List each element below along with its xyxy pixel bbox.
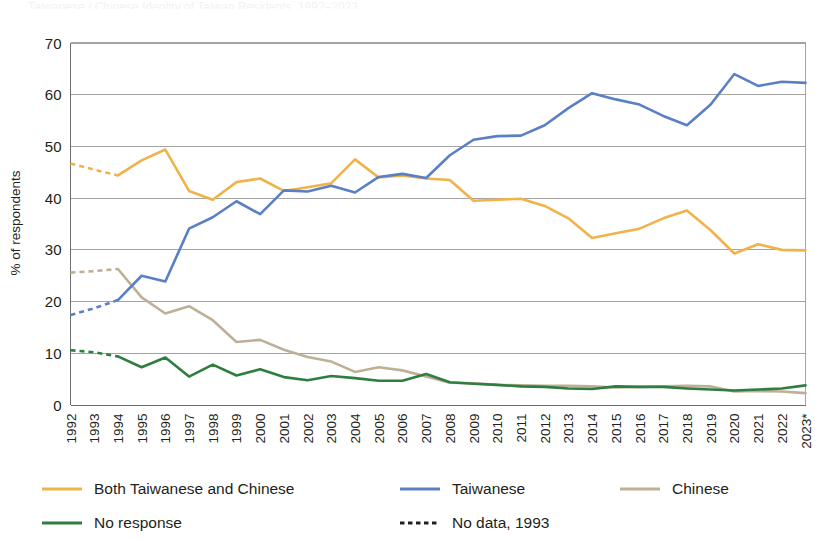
y-tick-10: 10 [45,345,62,362]
x-tick-2020: 2020 [727,414,742,444]
legend-label-taiwanese: Taiwanese [452,480,525,497]
x-tick-1995: 1995 [135,414,150,444]
legend-label-no-response: No response [94,514,182,531]
x-tick-1998: 1998 [206,414,221,444]
y-tick-20: 20 [45,293,62,310]
x-tick-1997: 1997 [182,414,197,444]
x-tick-2016: 2016 [633,414,648,444]
x-tick-2003: 2003 [324,414,339,444]
y-tick-60: 60 [45,86,62,103]
series-taiwanese-nodata-segment [71,300,118,315]
series-both-taiwanese-and-chinese-line [118,150,806,254]
y-tick-30: 30 [45,241,62,258]
series-chinese-line [118,269,806,393]
x-tick-2019: 2019 [704,414,719,444]
x-tick-2000: 2000 [253,414,268,444]
x-tick-1993: 1993 [87,414,102,444]
x-tick-2021: 2021 [751,414,766,444]
y-tick-50: 50 [45,138,62,155]
plot-frame [71,43,806,405]
x-tick-2001: 2001 [277,414,292,444]
data-series-layer [71,74,806,393]
x-tick-1999: 1999 [229,414,244,444]
x-tick-2005: 2005 [372,414,387,444]
x-tick-2015: 2015 [609,414,624,444]
x-tick-1996: 1996 [158,414,173,444]
y-tick-40: 40 [45,190,62,207]
x-tick-2022: 2022 [775,414,790,444]
y-axis-title: % of respondents [8,170,23,275]
legend-label-no-data-1993: No data, 1993 [452,514,549,531]
series-chinese-nodata-segment [71,269,118,273]
chart-legend[interactable]: Both Taiwanese and ChineseTaiwaneseChine… [42,480,729,531]
legend-item-no-response[interactable]: No response [42,514,182,531]
y-axis-label: % of respondents [8,170,23,275]
y-axis-tick-labels: 010203040506070 [45,35,62,414]
x-tick-2012: 2012 [538,414,553,444]
x-tick-1992: 1992 [64,414,79,444]
identity-trend-line-chart: 010203040506070 199219931994199519961997… [0,0,815,540]
x-tick-2023-star: 2023* [799,413,814,449]
legend-item-chinese[interactable]: Chinese [620,480,729,497]
x-tick-2010: 2010 [490,414,505,444]
x-axis-tick-labels: 1992199319941995199619971998199920002001… [64,413,814,449]
x-tick-2014: 2014 [585,413,600,444]
y-tick-0: 0 [53,397,61,414]
x-tick-2002: 2002 [301,414,316,444]
x-tick-2018: 2018 [680,414,695,444]
x-tick-2017: 2017 [656,414,671,444]
legend-item-taiwanese[interactable]: Taiwanese [400,480,525,497]
gridlines [71,44,806,406]
x-tick-2008: 2008 [443,414,458,444]
x-tick-2011: 2011 [514,414,529,443]
series-both-taiwanese-and-chinese-nodata-segment [71,164,118,176]
series-taiwanese-line [118,74,806,300]
x-tick-1994: 1994 [111,413,126,444]
x-tick-2006: 2006 [395,414,410,444]
y-tick-70: 70 [45,35,62,52]
x-tick-2009: 2009 [467,414,482,444]
legend-label-both-taiwanese-and-chinese: Both Taiwanese and Chinese [94,480,295,497]
legend-item-no-data-1993[interactable]: No data, 1993 [400,514,549,531]
x-tick-2004: 2004 [348,413,363,444]
legend-item-both-taiwanese-and-chinese[interactable]: Both Taiwanese and Chinese [42,480,295,497]
x-tick-2013: 2013 [561,414,576,444]
legend-label-chinese: Chinese [672,480,729,497]
x-tick-2007: 2007 [419,414,434,444]
